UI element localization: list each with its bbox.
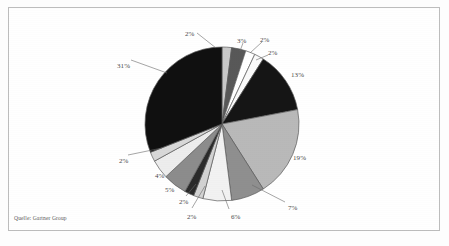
pie-chart: 2%3%2%2%13%19%7%6%2%2%5%4%2%31%	[0, 0, 449, 246]
pie-slice-label: 31%	[117, 62, 130, 70]
pie-slice-label: 7%	[288, 204, 298, 212]
pie-slice-label: 2%	[260, 36, 270, 44]
source-note: Quelle: Gartner Group	[14, 215, 67, 221]
page-canvas: 2%3%2%2%13%19%7%6%2%2%5%4%2%31% Quelle: …	[0, 0, 449, 246]
pie-slice-label: 2%	[268, 49, 278, 57]
pie-slice-label: 4%	[155, 172, 165, 180]
pie-slice-label: 19%	[293, 154, 306, 162]
pie-slice-label: 3%	[237, 37, 247, 45]
pie-slice-label: 2%	[119, 157, 129, 165]
pie-slice-label: 2%	[185, 30, 195, 38]
pie-chart-svg	[0, 0, 449, 246]
leader-2pct-top	[197, 33, 216, 48]
pie-slice-label: 13%	[291, 71, 304, 79]
pie-slices-group	[145, 47, 299, 201]
pie-slice-label: 2%	[179, 198, 189, 206]
pie-slice-label: 6%	[231, 213, 241, 221]
pie-slice-label: 2%	[187, 213, 197, 221]
leader-7pct	[252, 185, 285, 202]
pie-slice-label: 5%	[165, 186, 175, 194]
leader-31pct	[131, 60, 167, 73]
